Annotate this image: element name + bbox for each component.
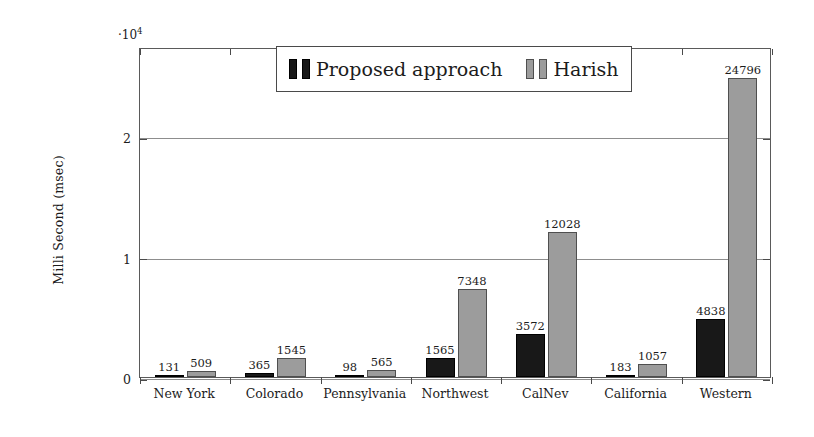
y-tick-mark	[140, 139, 147, 140]
x-axis-category-label: Western	[700, 386, 752, 401]
legend-swatch-group-harish	[526, 59, 547, 79]
bar-value-label: 7348	[457, 274, 486, 288]
y-gridline: 2	[140, 138, 770, 139]
legend-swatch-icon	[526, 59, 534, 79]
y-tick-label: 0	[123, 371, 131, 389]
x-tick-mark	[772, 377, 773, 384]
y-axis-multiplier: ·104	[118, 26, 143, 42]
plot-area: 012 131509365154598565156573483572120281…	[139, 48, 771, 378]
y-tick-mark-right	[763, 139, 770, 140]
y-tick-label: 1	[123, 251, 131, 269]
bar-value-label: 98	[342, 360, 357, 374]
bar-value-label: 1545	[277, 343, 306, 357]
x-axis-category-label: Pennsylvania	[323, 386, 406, 401]
bar-harish-california: 1057	[638, 364, 667, 377]
bar-harish-western: 24796	[728, 78, 757, 377]
x-tick-mark	[140, 377, 141, 384]
legend-swatch-icon	[289, 59, 297, 79]
y-tick-mark	[140, 259, 147, 260]
chart-figure: Milli Second (msec) ·104 012 13150936515…	[0, 0, 814, 437]
y-axis-label: Milli Second (msec)	[51, 155, 66, 285]
bar-proposed-approach-western: 4838	[696, 319, 725, 377]
y-gridline: 1	[140, 259, 770, 260]
bar-value-label: 183	[610, 360, 632, 374]
legend-entry-harish: Harish	[526, 58, 618, 80]
bar-proposed-approach-california: 183	[606, 375, 635, 378]
x-tick-mark	[682, 377, 683, 384]
y-axis-multiplier-base: ·10	[118, 28, 137, 42]
y-tick-mark-right	[763, 380, 770, 381]
bar-proposed-approach-calnev: 3572	[516, 334, 545, 377]
x-tick-mark-top	[230, 49, 231, 55]
y-tick-mark	[140, 380, 147, 381]
legend-entry-proposed-approach: Proposed approach	[289, 58, 502, 80]
bar-proposed-approach-northwest: 1565	[426, 358, 455, 377]
bar-proposed-approach-colorado: 365	[245, 373, 274, 377]
y-gridline: 0	[140, 379, 770, 380]
legend-label-proposed-approach: Proposed approach	[316, 58, 502, 80]
bar-harish-new-york: 509	[187, 371, 216, 377]
legend-swatch-icon	[539, 59, 547, 79]
chart-legend: Proposed approach Harish	[276, 46, 632, 92]
bar-value-label: 509	[190, 356, 212, 370]
legend-swatch-group-proposed-approach	[289, 59, 310, 79]
x-tick-mark	[501, 377, 502, 384]
x-axis-category-label: CalNev	[522, 386, 568, 401]
bar-value-label: 365	[248, 358, 270, 372]
x-axis-category-label: California	[604, 386, 667, 401]
x-tick-mark	[321, 377, 322, 384]
x-tick-mark	[230, 377, 231, 384]
y-axis-label-wrapper: Milli Second (msec)	[44, 120, 72, 320]
x-tick-mark-top	[140, 49, 141, 55]
legend-label-harish: Harish	[553, 58, 618, 80]
bar-value-label: 1057	[638, 349, 667, 363]
y-tick-label: 2	[123, 130, 131, 148]
x-axis-category-label: New York	[154, 386, 215, 401]
bar-value-label: 4838	[696, 304, 725, 318]
x-axis-category-label: Northwest	[421, 386, 488, 401]
bar-harish-pennsylvania: 565	[367, 370, 396, 377]
bar-proposed-approach-pennsylvania: 98	[335, 375, 364, 378]
x-axis-category-label: Colorado	[246, 386, 304, 401]
x-tick-mark-top	[772, 49, 773, 55]
y-tick-mark-right	[763, 259, 770, 260]
bar-harish-calnev: 12028	[548, 232, 577, 377]
bar-value-label: 24796	[725, 63, 762, 77]
bar-proposed-approach-new-york: 131	[155, 375, 184, 378]
x-tick-mark	[591, 377, 592, 384]
bar-value-label: 565	[371, 355, 393, 369]
bar-value-label: 131	[158, 360, 180, 374]
bar-harish-northwest: 7348	[458, 289, 487, 377]
bar-value-label: 3572	[516, 319, 545, 333]
x-tick-mark	[411, 377, 412, 384]
y-axis-multiplier-exponent: 4	[137, 26, 142, 36]
x-tick-mark-top	[682, 49, 683, 55]
bar-value-label: 1565	[425, 343, 454, 357]
legend-swatch-icon	[302, 59, 310, 79]
bar-value-label: 12028	[544, 217, 581, 231]
bar-harish-colorado: 1545	[277, 358, 306, 377]
